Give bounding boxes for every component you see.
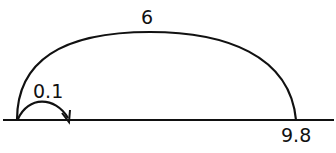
- small-jump-arc: [18, 102, 68, 119]
- end-value-label: 9.8: [281, 126, 311, 145]
- large-jump-label: 6: [141, 8, 153, 27]
- small-jump-label: 0.1: [33, 82, 63, 101]
